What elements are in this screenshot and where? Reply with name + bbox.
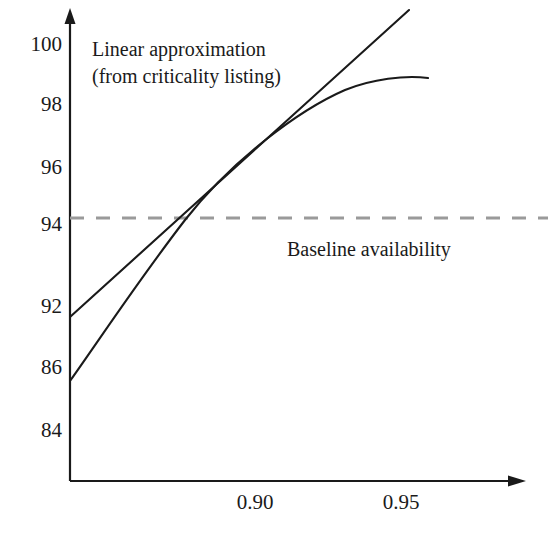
y-tick-label-86: 86 [16,357,62,378]
y-axis-arrow-icon [65,8,76,24]
y-tick-label-98: 98 [16,94,62,115]
y-tick-label-94: 94 [16,214,62,235]
y-tick-label-92: 92 [16,296,62,317]
y-tick-label-96: 96 [16,157,62,178]
linear-approximation-annotation-line-1: Linear approximation [92,36,281,63]
y-tick-label-100: 100 [16,34,62,55]
availability-curve-line [70,77,428,381]
x-axis-arrow-icon [508,476,526,487]
x-tick-label-0-95: 0.95 [356,492,446,513]
linear-approximation-annotation-line-2: (from criticality listing) [92,63,281,90]
y-tick-label-84: 84 [16,420,62,441]
baseline-availability-annotation: Baseline availability [287,236,451,263]
x-tick-label-0-90: 0.90 [210,492,300,513]
linear-approximation-annotation: Linear approximation (from criticality l… [92,36,281,90]
availability-chart-figure: 100 98 96 94 92 86 84 0.90 0.95 Linear a… [0,0,551,534]
